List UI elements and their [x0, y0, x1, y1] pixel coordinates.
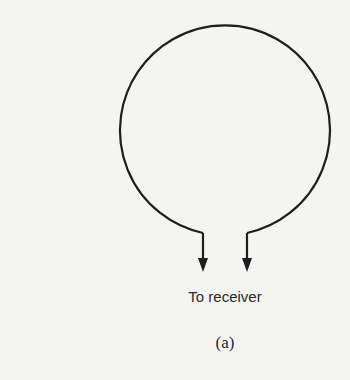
- loop-antenna-diagram: [0, 0, 350, 380]
- loop-antenna-circle: [120, 25, 330, 233]
- figure-caption: (a): [0, 333, 350, 353]
- left-arrow-icon: [198, 258, 208, 272]
- receiver-label: To receiver: [0, 288, 350, 305]
- right-arrow-icon: [242, 258, 252, 272]
